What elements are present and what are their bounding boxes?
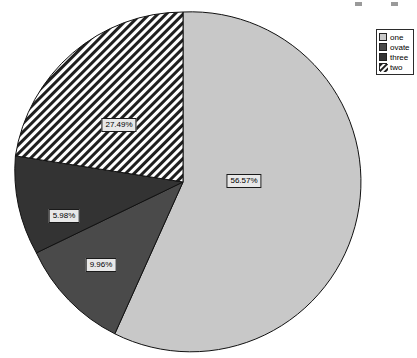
legend-item-three[interactable]: three — [379, 52, 410, 62]
pie-label-three: 5.98% — [49, 209, 80, 223]
pie-chart-canvas — [0, 0, 417, 358]
legend-item-ovate[interactable]: ovate — [379, 42, 410, 52]
legend-label-one: one — [390, 33, 403, 42]
pie-slice-two — [15, 12, 183, 182]
top-artifact-left — [355, 2, 362, 6]
legend-label-three: three — [390, 53, 408, 62]
pie-chart-figure: 56.57% 9.96% 5.98% 27.49% one ovate thre… — [0, 0, 417, 358]
legend-item-one[interactable]: one — [379, 32, 410, 42]
legend-label-ovate: ovate — [390, 43, 410, 52]
light-gray-swatch-icon — [379, 33, 387, 41]
hatched-swatch-icon — [379, 63, 387, 71]
pie-label-two: 27.49% — [101, 118, 136, 132]
pie-label-one: 56.57% — [226, 174, 261, 188]
dark-gray-swatch-icon — [379, 53, 387, 61]
legend-label-two: two — [390, 63, 402, 72]
top-artifact-right — [391, 2, 398, 6]
chart-legend: one ovate three two — [376, 29, 414, 75]
medium-gray-swatch-icon — [379, 43, 387, 51]
pie-label-ovate: 9.96% — [86, 258, 117, 272]
legend-item-two[interactable]: two — [379, 62, 410, 72]
